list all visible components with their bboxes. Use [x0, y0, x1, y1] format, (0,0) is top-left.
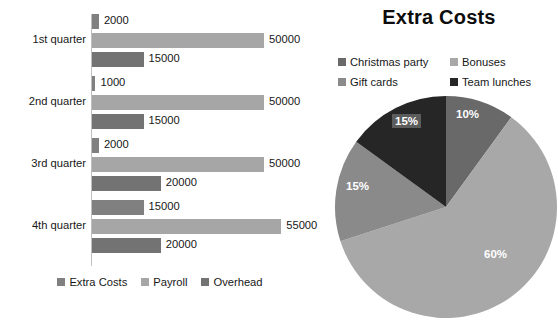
- bar-payroll[interactable]: [92, 33, 264, 48]
- bar-row: 15000: [92, 200, 320, 215]
- legend-item[interactable]: Overhead: [201, 276, 262, 288]
- bar-overhead[interactable]: [92, 52, 144, 67]
- bar-value-label: 1000: [95, 75, 125, 90]
- bar-value-label: 20000: [161, 175, 197, 190]
- pie-legend-item-label: Team lunches: [462, 76, 531, 88]
- bar-row: 1000: [92, 76, 320, 91]
- bar-value-label: 15000: [144, 199, 180, 214]
- legend-item-label: Payroll: [153, 276, 187, 288]
- extra-costs-pie-chart: Extra Costs Christmas partyBonusesGift c…: [320, 0, 558, 324]
- bar-row: 15000: [92, 114, 320, 129]
- bar-group-bars: 20005000020000: [92, 138, 320, 195]
- pie-svg: [334, 94, 558, 318]
- bar-chart-legend: Extra CostsPayrollOverhead: [0, 276, 320, 288]
- bar-payroll[interactable]: [92, 157, 264, 172]
- bar-extra-costs[interactable]: [92, 14, 99, 29]
- pie-legend-item-label: Gift cards: [350, 76, 398, 88]
- bar-row: 20000: [92, 238, 320, 253]
- bar-overhead[interactable]: [92, 238, 161, 253]
- bar-row: 2000: [92, 14, 320, 29]
- bar-category-label: 2nd quarter: [0, 95, 86, 108]
- pie-chart-plot-area: 10%60%15%15%: [334, 94, 558, 320]
- bar-row: 50000: [92, 95, 320, 110]
- bar-value-label: 15000: [144, 51, 180, 66]
- pie-legend-item-label: Christmas party: [350, 56, 428, 68]
- bar-payroll[interactable]: [92, 219, 281, 234]
- pie-legend-row: Gift cardsTeam lunches: [338, 72, 546, 92]
- pie-legend-item-label: Bonuses: [462, 56, 506, 68]
- bar-value-label: 20000: [161, 237, 197, 252]
- bar-payroll[interactable]: [92, 95, 264, 110]
- bar-category-label: 3rd quarter: [0, 157, 86, 170]
- legend-swatch-icon: [450, 78, 458, 86]
- legend-swatch-icon: [338, 58, 346, 66]
- legend-item-label: Overhead: [213, 276, 262, 288]
- pie-legend-item[interactable]: Team lunches: [450, 76, 531, 88]
- bar-row: 2000: [92, 138, 320, 153]
- legend-item[interactable]: Extra Costs: [57, 276, 127, 288]
- bar-group: 3rd quarter20005000020000: [0, 138, 320, 195]
- bar-value-label: 55000: [281, 218, 317, 233]
- bar-row: 50000: [92, 33, 320, 48]
- bar-extra-costs[interactable]: [92, 138, 99, 153]
- pie-chart-title: Extra Costs: [320, 6, 558, 29]
- legend-item[interactable]: Payroll: [141, 276, 187, 288]
- bar-group: 1st quarter20005000015000: [0, 14, 320, 71]
- bar-row: 15000: [92, 52, 320, 67]
- bar-group-bars: 10005000015000: [92, 76, 320, 133]
- pie-slice-percent-label: 15%: [346, 180, 369, 192]
- pie-slice-percent-label: 10%: [456, 108, 479, 120]
- pie-legend-row: Christmas partyBonuses: [338, 52, 546, 72]
- pie-legend-item[interactable]: Bonuses: [450, 56, 506, 68]
- pie-chart-legend: Christmas partyBonusesGift cardsTeam lun…: [338, 52, 546, 92]
- bar-category-label: 4th quarter: [0, 219, 86, 232]
- bar-group-bars: 150005500020000: [92, 200, 320, 257]
- pie-slice-percent-label: 15%: [392, 114, 421, 128]
- bar-row: 50000: [92, 157, 320, 172]
- bar-overhead[interactable]: [92, 176, 161, 191]
- bar-row: 55000: [92, 219, 320, 234]
- legend-item-label: Extra Costs: [69, 276, 127, 288]
- bar-row: 20000: [92, 176, 320, 191]
- quarterly-costs-bar-chart: 1st quarter200050000150002nd quarter1000…: [0, 0, 320, 324]
- bar-category-label: 1st quarter: [0, 33, 86, 46]
- legend-swatch-icon: [57, 278, 65, 286]
- bar-value-label: 50000: [264, 156, 300, 171]
- bar-group: 4th quarter150005500020000: [0, 200, 320, 257]
- bar-value-label: 50000: [264, 94, 300, 109]
- legend-swatch-icon: [141, 278, 149, 286]
- bar-value-label: 2000: [99, 137, 129, 152]
- bar-group: 2nd quarter10005000015000: [0, 76, 320, 133]
- pie-legend-item[interactable]: Gift cards: [338, 76, 450, 88]
- legend-swatch-icon: [338, 78, 346, 86]
- chart-canvas: 1st quarter200050000150002nd quarter1000…: [0, 0, 558, 324]
- pie-slice-percent-label: 60%: [484, 248, 507, 260]
- bar-chart-plot-area: 1st quarter200050000150002nd quarter1000…: [0, 14, 320, 266]
- bar-extra-costs[interactable]: [92, 200, 144, 215]
- bar-overhead[interactable]: [92, 114, 144, 129]
- legend-swatch-icon: [450, 58, 458, 66]
- bar-group-bars: 20005000015000: [92, 14, 320, 71]
- pie-legend-item[interactable]: Christmas party: [338, 56, 450, 68]
- bar-value-label: 2000: [99, 13, 129, 28]
- bar-value-label: 50000: [264, 32, 300, 47]
- legend-swatch-icon: [201, 278, 209, 286]
- bar-value-label: 15000: [144, 113, 180, 128]
